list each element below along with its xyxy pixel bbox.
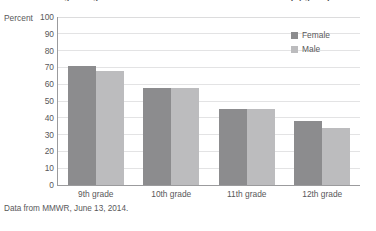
legend-item-male: Male xyxy=(291,43,361,55)
bar-group: 9th grade xyxy=(58,17,134,185)
bar-female xyxy=(219,109,247,185)
legend-item-female: Female xyxy=(291,29,361,41)
chart-title: Percentage of high school students who h… xyxy=(30,0,370,1)
bar-chart-figure: Percentage of high school students who h… xyxy=(0,0,376,231)
x-axis-tick-label: 12th grade xyxy=(302,189,342,199)
legend-swatch-male-icon xyxy=(291,46,298,53)
bar-male xyxy=(96,71,124,185)
bar-female xyxy=(68,66,96,185)
bar-female xyxy=(294,121,322,185)
bar-group: 11th grade xyxy=(209,17,285,185)
y-axis-tick-label: 50 xyxy=(45,96,54,106)
x-axis-tick-label: 9th grade xyxy=(78,189,113,199)
y-axis-tick-label: 80 xyxy=(45,46,54,56)
bar-male xyxy=(171,88,199,185)
legend-label-male: Male xyxy=(302,44,320,54)
y-axis-tick-label: 70 xyxy=(45,62,54,72)
bar-group: 10th grade xyxy=(134,17,210,185)
y-axis-tick-label: 30 xyxy=(45,130,54,140)
x-axis-tick-label: 10th grade xyxy=(151,189,191,199)
y-axis-tick-label: 0 xyxy=(49,180,54,190)
legend-label-female: Female xyxy=(302,30,330,40)
y-axis-tick-label: 20 xyxy=(45,146,54,156)
x-axis-tick-label: 11th grade xyxy=(227,189,266,199)
y-axis-tick-label: 60 xyxy=(45,79,54,89)
y-axis-title: Percent xyxy=(4,13,33,23)
chart-legend: Female Male xyxy=(291,29,361,57)
bar-male xyxy=(247,109,275,185)
bar-female xyxy=(143,88,171,185)
y-axis-tick-label: 90 xyxy=(45,29,54,39)
y-axis-tick-label: 40 xyxy=(45,113,54,123)
bar-male xyxy=(322,128,350,185)
legend-swatch-female-icon xyxy=(291,32,298,39)
source-note: Data from MMWR, June 13, 2014. xyxy=(4,204,128,213)
y-axis-tick-label: 10 xyxy=(45,163,54,173)
y-axis-tick-label: 100 xyxy=(40,12,54,22)
